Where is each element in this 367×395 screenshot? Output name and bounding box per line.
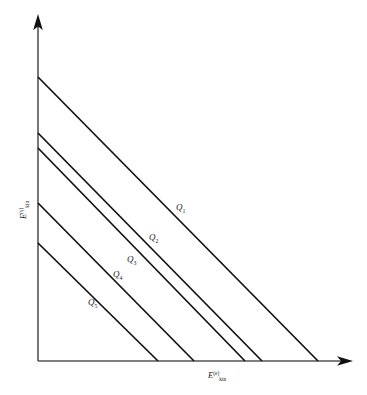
curve-label-q3: Q3 (127, 254, 137, 266)
curve-label-q2: Q2 (149, 232, 159, 244)
y-axis-label: E(γ)kin (18, 201, 31, 220)
curve-label-q5: Q5 (88, 297, 98, 309)
curve-label-q1: Q1 (176, 202, 186, 214)
kinematic-constraint-figure: Q1 Q2 Q3 Q4 Q5 E(e)kin E(γ)kin (0, 0, 367, 395)
plot-canvas: Q1 Q2 Q3 Q4 Q5 E(e)kin E(γ)kin (0, 0, 367, 395)
constraint-line-q4 (38, 203, 194, 361)
curve-label-q4: Q4 (113, 269, 123, 281)
x-axis-label: E(e)kin (207, 370, 226, 383)
constraint-line-q5 (38, 243, 158, 361)
constraint-line-q1 (38, 77, 318, 361)
constraint-line-q2 (38, 133, 262, 361)
